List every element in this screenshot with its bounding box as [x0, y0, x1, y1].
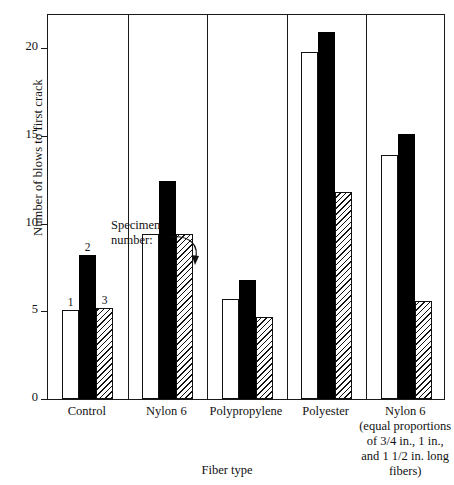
y-axis-tick-label: 5 — [32, 303, 38, 315]
bar — [318, 32, 335, 399]
specimen-annotation: Specimen number: — [111, 218, 160, 248]
bar — [62, 310, 79, 399]
group-separator — [207, 15, 208, 399]
bar — [142, 234, 159, 399]
y-axis-tick-label: 20 — [26, 40, 39, 52]
y-axis-tick-label: 15 — [26, 128, 39, 140]
bar — [222, 299, 239, 399]
specimen-number-label: 1 — [68, 297, 74, 308]
x-axis-label-sub: of 3/4 in., 1 in., — [353, 434, 454, 449]
specimen-number-label: 3 — [102, 295, 108, 306]
bar — [159, 181, 176, 399]
x-axis-label-main: Nylon 6 — [146, 404, 187, 418]
bar — [415, 301, 432, 399]
specimen-annotation-line2: number: — [111, 233, 153, 247]
bar — [239, 280, 256, 399]
bar — [398, 134, 415, 399]
x-axis-label-main: Polyester — [302, 404, 349, 418]
group-separator — [366, 15, 367, 399]
y-axis-tick-label: 0 — [32, 391, 38, 403]
annotation-arrow-icon — [168, 231, 208, 273]
specimen-number-label: 2 — [85, 242, 91, 253]
specimen-annotation-line1: Specimen — [111, 218, 160, 232]
group-separator — [287, 15, 288, 399]
bar — [301, 52, 318, 399]
bar — [96, 308, 113, 399]
x-axis-label-main: Nylon 6 — [385, 404, 426, 418]
x-axis-title: Fiber type — [0, 463, 454, 478]
bar — [335, 192, 352, 399]
x-axis-label-main: Polypropylene — [210, 404, 283, 418]
x-axis-label-main: Control — [68, 404, 106, 418]
plot-area: Specimen number: 123 — [47, 14, 445, 400]
bar — [381, 155, 398, 399]
y-axis-tick-label: 10 — [26, 216, 39, 228]
bar-chart-figure: Number of blows to first crack 05101520 … — [0, 0, 454, 485]
group-separator — [128, 15, 129, 399]
bar — [256, 317, 273, 399]
x-axis-label-sub: (equal proportions — [353, 419, 454, 434]
bar — [79, 255, 96, 399]
x-axis-label-sub: and 1 1/2 in. long — [353, 449, 454, 464]
